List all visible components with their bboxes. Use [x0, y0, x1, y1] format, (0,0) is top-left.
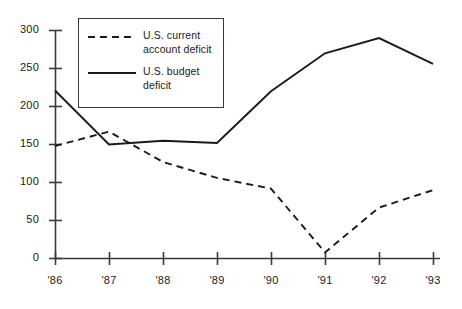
x-tick-label-88: '88: [146, 274, 180, 286]
x-tick-label-91: '91: [308, 274, 342, 286]
x-tick-label-93: '93: [416, 274, 450, 286]
legend-label-budget-deficit: U.S. budget deficit: [143, 64, 200, 92]
chart-plot-area: [0, 0, 462, 309]
legend-dashed-line-icon: [88, 35, 136, 37]
legend-entry-current-account-deficit: U.S. current account deficit: [79, 28, 223, 64]
y-tick-label-300: 300: [5, 23, 39, 35]
y-tick-label-150: 150: [5, 137, 39, 149]
chart-legend: U.S. current account deficit U.S. budget…: [78, 18, 224, 108]
y-tick-label-50: 50: [5, 213, 39, 225]
series-line-current-account-deficit: [55, 132, 433, 253]
x-tick-label-86: '86: [38, 274, 72, 286]
legend-entry-budget-deficit: U.S. budget deficit: [79, 64, 223, 100]
legend-solid-line-icon: [88, 71, 136, 73]
x-tick-label-92: '92: [362, 274, 396, 286]
legend-label-current-account-deficit: U.S. current account deficit: [143, 28, 212, 56]
x-tick-label-90: '90: [254, 274, 288, 286]
y-tick-label-250: 250: [5, 61, 39, 73]
chart-container: 300 250 200 150 100 50 0 '86 '87 '88 '89…: [0, 0, 462, 309]
x-tick-label-87: '87: [92, 274, 126, 286]
y-tick-label-100: 100: [5, 175, 39, 187]
x-tick-label-89: '89: [200, 274, 234, 286]
y-tick-label-200: 200: [5, 99, 39, 111]
y-tick-label-0: 0: [5, 251, 39, 263]
